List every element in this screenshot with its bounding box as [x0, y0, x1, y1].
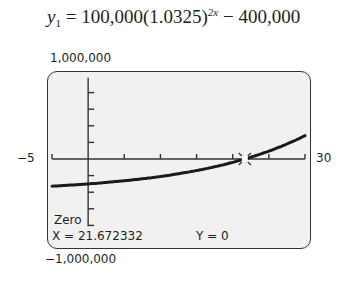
- mode-label: Zero: [54, 213, 82, 227]
- function-curve: [52, 136, 305, 187]
- y-readout: Y = 0: [196, 229, 229, 243]
- x-readout: X = 21.672332: [52, 229, 143, 243]
